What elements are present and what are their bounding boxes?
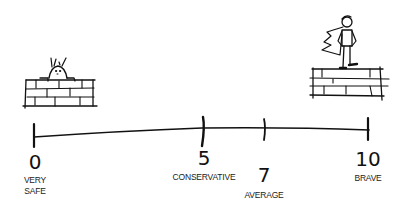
tick-label-brave: BRAVE — [354, 173, 381, 184]
tick-value-0: 0 — [29, 150, 42, 174]
tick-label-very-safe: VERY SAFE — [24, 175, 46, 197]
tick-value-7: 7 — [258, 163, 271, 187]
tick-value-5: 5 — [198, 146, 211, 170]
tick-5 — [202, 117, 204, 146]
label-line: VERY — [24, 175, 46, 186]
label-line: SAFE — [24, 186, 46, 197]
scale-line — [34, 128, 369, 137]
caped-hero-illustration — [310, 16, 389, 100]
tick-7 — [264, 119, 265, 140]
hiding-person-illustration — [23, 58, 97, 108]
tick-label-conservative: CONSERVATIVE — [173, 172, 236, 183]
tick-value-10: 10 — [355, 147, 380, 171]
tick-label-average: AVERAGE — [244, 190, 283, 201]
